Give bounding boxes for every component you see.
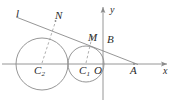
label-point-a: A: [130, 65, 137, 76]
label-axis-x: x: [163, 66, 167, 76]
label-center-c1-subscript: 1: [87, 70, 91, 78]
label-point-m: M: [88, 32, 97, 43]
label-center-c1: C1: [79, 65, 90, 78]
geometry-canvas: [0, 0, 174, 102]
label-center-c2: C2: [34, 65, 45, 78]
label-center-c1-letter: C: [79, 64, 86, 76]
label-center-c2-letter: C: [34, 64, 41, 76]
geometry-figure: l N M B O A x y C2 C1: [0, 0, 174, 102]
label-point-o: O: [94, 65, 102, 76]
label-point-n: N: [55, 10, 62, 21]
label-line-l: l: [16, 8, 19, 19]
label-point-b: B: [107, 34, 114, 45]
tangent-line-group: [16, 17, 138, 65]
line-l: [16, 17, 138, 65]
label-axis-y: y: [110, 5, 114, 15]
label-center-c2-subscript: 2: [42, 70, 46, 78]
